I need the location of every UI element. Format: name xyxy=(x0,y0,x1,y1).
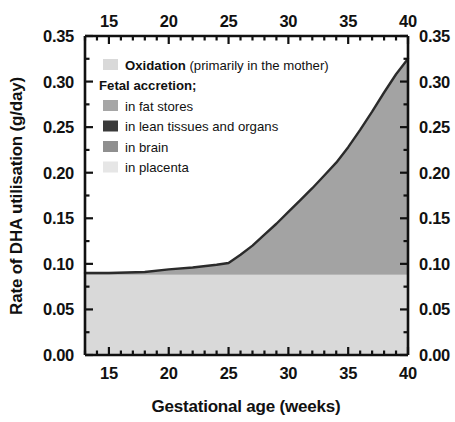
y-tick-label-right-0.35: 0.35 xyxy=(419,27,450,45)
x-tick-label-top-30: 30 xyxy=(279,12,297,30)
legend-label-text-0: (primarily in the mother) xyxy=(186,58,329,73)
y-tick-label-left-0.15: 0.15 xyxy=(43,209,74,227)
x-tick-label-top-20: 20 xyxy=(160,12,178,30)
chart-figure: 1515202025253030353540400.350.350.300.30… xyxy=(0,0,455,422)
y-tick-label-left-0.2: 0.20 xyxy=(43,164,74,182)
y-tick-label-left-0: 0.00 xyxy=(43,346,74,364)
legend-label-5: in placenta xyxy=(125,160,189,175)
x-tick-label-top-40: 40 xyxy=(399,12,417,30)
y-tick-label-right-0.15: 0.15 xyxy=(419,209,450,227)
y-tick-label-left-0.05: 0.05 xyxy=(43,300,74,318)
y-tick-label-right-0.2: 0.20 xyxy=(419,164,450,182)
legend-label-text-3: in lean tissues and organs xyxy=(125,119,279,134)
y-tick-label-left-0.3: 0.30 xyxy=(43,73,74,91)
legend-label-bold-0: Oxidation xyxy=(125,58,186,73)
oxidation-swatch xyxy=(103,59,118,70)
fat-stores-swatch xyxy=(103,100,118,111)
legend-label-0: Oxidation (primarily in the mother) xyxy=(125,58,329,73)
x-tick-label-bottom-30: 30 xyxy=(279,364,297,382)
x-tick-label-top-25: 25 xyxy=(220,12,238,30)
x-tick-label-bottom-35: 35 xyxy=(339,364,357,382)
x-tick-label-top-35: 35 xyxy=(339,12,357,30)
oxidation-baseline-area xyxy=(85,275,408,355)
y-tick-label-right-0.3: 0.30 xyxy=(419,73,450,91)
legend-label-3: in lean tissues and organs xyxy=(125,119,279,134)
dha-utilisation-area-chart: 1515202025253030353540400.350.350.300.30… xyxy=(0,0,455,422)
y-tick-label-right-0.25: 0.25 xyxy=(419,118,450,136)
y-tick-label-right-0.1: 0.10 xyxy=(419,255,450,273)
placenta-swatch xyxy=(103,162,118,173)
x-axis-title: Gestational age (weeks) xyxy=(151,397,340,416)
brain-swatch xyxy=(103,141,118,152)
x-tick-label-bottom-15: 15 xyxy=(100,364,118,382)
y-tick-label-left-0.1: 0.10 xyxy=(43,255,74,273)
x-tick-label-top-15: 15 xyxy=(100,12,118,30)
x-tick-label-bottom-25: 25 xyxy=(220,364,238,382)
y-tick-label-left-0.35: 0.35 xyxy=(43,27,74,45)
y-tick-label-right-0: 0.00 xyxy=(419,346,450,364)
x-tick-label-bottom-40: 40 xyxy=(399,364,417,382)
y-axis-title: Rate of DHA utilisation (g/day) xyxy=(7,77,26,315)
lean-tissues-swatch xyxy=(103,121,118,132)
legend-label-1: Fetal accretion; xyxy=(99,78,196,93)
legend-label-4: in brain xyxy=(125,140,168,155)
legend-label-text-2: in fat stores xyxy=(125,99,194,114)
legend-label-text-5: in placenta xyxy=(125,160,189,175)
y-tick-label-left-0.25: 0.25 xyxy=(43,118,74,136)
legend-label-2: in fat stores xyxy=(125,99,194,114)
x-tick-label-bottom-20: 20 xyxy=(160,364,178,382)
y-tick-label-right-0.05: 0.05 xyxy=(419,300,450,318)
legend-label-text-4: in brain xyxy=(125,140,168,155)
legend-label-bold-1: Fetal accretion; xyxy=(99,78,196,93)
